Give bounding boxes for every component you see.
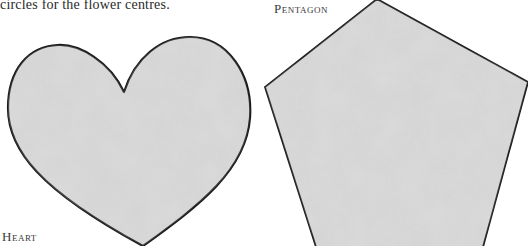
shape-templates xyxy=(0,0,528,246)
pentagon-label: Pentagon xyxy=(274,1,328,17)
heart-shape xyxy=(8,37,250,246)
pentagon-shape xyxy=(265,0,528,246)
heart-label: Heart xyxy=(2,229,37,245)
